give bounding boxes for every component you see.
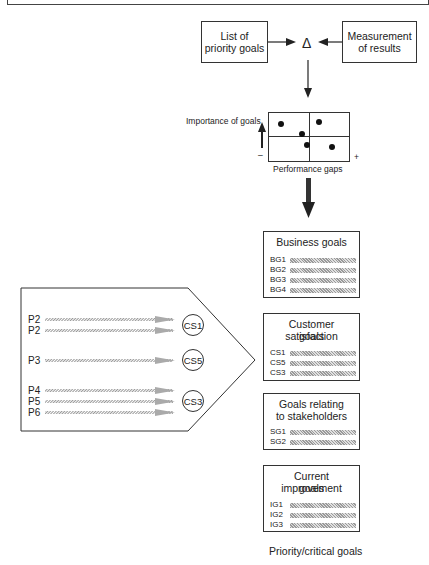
cs1-circle: CS1 <box>182 314 204 336</box>
cs3-circle: CS3 <box>182 390 204 412</box>
cs5-circle: CS5 <box>182 349 204 371</box>
